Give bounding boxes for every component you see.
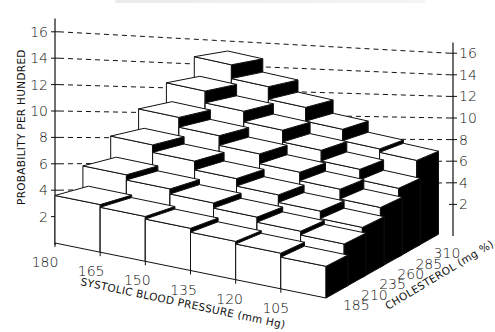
left-tick-label: 12 [30, 77, 48, 93]
left-tick-label: 2 [39, 209, 48, 225]
bar-front-face [55, 196, 100, 253]
right-tick-label: 14 [459, 67, 477, 83]
right-z-axis: 246810121416 [449, 42, 477, 236]
dashed-guide-16 [59, 32, 449, 53]
left-tick-label: 6 [39, 156, 48, 172]
left-tick-label: 14 [30, 50, 48, 66]
right-tick-label: 6 [459, 153, 468, 169]
right-tick-label: 16 [459, 45, 477, 61]
right-tick-label: 2 [459, 196, 468, 212]
left-tick-label: 4 [39, 182, 48, 198]
chart-3d-bar: 246810121416 246810121416 18016515013512… [0, 0, 495, 332]
bar-bp105-chol185 [281, 246, 348, 298]
bp-tick-180: 180 [32, 254, 59, 270]
right-tick-label: 4 [459, 175, 468, 191]
left-tick-label: 16 [30, 24, 48, 40]
right-tick-label: 12 [459, 88, 477, 104]
right-tick-label: 10 [459, 110, 477, 126]
bar-grid [55, 51, 439, 298]
z-axis-title: PROBABILITY PER HUNDRED [15, 49, 27, 205]
right-tick-label: 8 [459, 132, 468, 148]
left-tick-label: 10 [30, 103, 48, 119]
left-tick-label: 8 [39, 129, 48, 145]
